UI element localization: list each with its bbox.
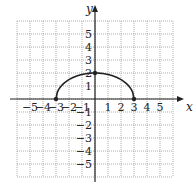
- x-tick-label: 4: [144, 101, 151, 114]
- data-point: [93, 71, 97, 75]
- y-axis-label: y: [85, 2, 93, 16]
- data-point: [132, 97, 136, 101]
- y-tick-label: 5: [85, 28, 92, 41]
- y-tick-label: 3: [85, 54, 92, 67]
- x-tick-label: 2: [118, 101, 125, 114]
- y-tick-label: −5: [76, 158, 92, 171]
- y-tick-label: −2: [76, 119, 92, 132]
- data-point: [54, 97, 58, 101]
- y-tick-label: −1: [76, 106, 92, 119]
- x-axis-label: x: [186, 100, 193, 114]
- x-tick-label: 1: [105, 101, 112, 114]
- y-tick-label: −4: [76, 145, 92, 158]
- x-tick-label: 5: [157, 101, 164, 114]
- y-tick-label: −3: [76, 132, 92, 145]
- y-arrow-icon: [92, 5, 98, 12]
- axes: [10, 5, 184, 182]
- x-arrow-icon: [177, 96, 184, 102]
- y-tick-label: 4: [85, 41, 92, 54]
- x-tick-label: 3: [131, 101, 138, 114]
- graph: −5−4−3−2−11234554321−1−2−3−4−5 x y: [0, 0, 196, 188]
- y-tick-label: 1: [85, 80, 92, 93]
